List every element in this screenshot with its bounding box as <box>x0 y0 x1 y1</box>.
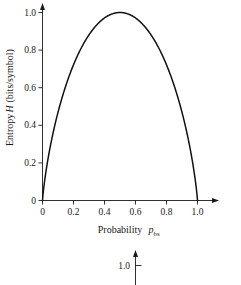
secondary-y-axis-up-arrow-icon <box>133 250 138 257</box>
x-axis-title-word: Probability <box>98 224 142 235</box>
y-tick-label-4: 0.8 <box>24 45 36 55</box>
entropy-curve-path <box>43 13 198 201</box>
x-tick-label-3: 0.6 <box>130 207 142 217</box>
y-tick-labels: 0 0.2 0.4 0.6 0.8 1.0 <box>24 8 36 206</box>
y-tick-label-2: 0.4 <box>24 120 36 130</box>
entropy-figure: 0 0.2 0.4 0.6 0.8 1.0 0 0.2 0.4 <box>0 0 241 285</box>
secondary-plot-group: 1.0 <box>118 250 141 285</box>
x-tick-label-2: 0.4 <box>99 207 111 217</box>
figure-canvas: 0 0.2 0.4 0.6 0.8 1.0 0 0.2 0.4 <box>0 0 241 285</box>
x-tick-labels: 0 0.2 0.4 0.6 0.8 1.0 <box>40 207 204 217</box>
y-axis-up-arrow-icon <box>40 3 45 10</box>
x-tick-label-0: 0 <box>40 207 45 217</box>
x-tick-label-1: 0.2 <box>68 207 80 217</box>
y-tick-label-5: 1.0 <box>24 8 36 18</box>
y-axis-title-symbol: H <box>4 105 15 114</box>
x-tick-label-5: 1.0 <box>192 207 204 217</box>
y-axis-title-word: Entropy <box>4 114 15 146</box>
x-axis-right-arrow-icon <box>212 198 219 203</box>
secondary-y-tick-label: 1.0 <box>118 261 130 271</box>
y-tick-label-0: 0 <box>31 196 36 206</box>
x-tick-label-4: 0.8 <box>161 207 173 217</box>
y-tick-label-3: 0.6 <box>24 83 36 93</box>
x-axis-title: Probability p bs <box>98 224 160 237</box>
x-axis-title-subscript: bs <box>154 230 160 237</box>
y-axis-title-units: (bits/symbol) <box>4 49 16 102</box>
y-axis-title: Entropy H (bits/symbol) <box>4 49 16 146</box>
y-tick-marks <box>39 13 43 201</box>
x-tick-marks <box>43 201 198 205</box>
main-plot-group: 0 0.2 0.4 0.6 0.8 1.0 0 0.2 0.4 <box>4 3 219 237</box>
y-tick-label-1: 0.2 <box>24 158 36 168</box>
